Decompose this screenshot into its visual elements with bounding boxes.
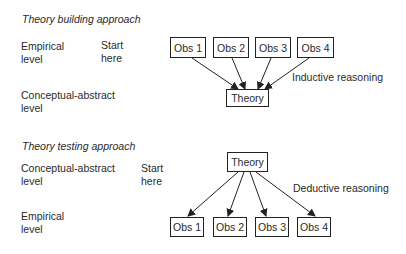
testing-obs-1-box: Obs 1: [170, 217, 204, 237]
label-line: level: [21, 175, 115, 188]
testing-empirical-level-label: Empirical level: [21, 210, 64, 235]
label-line: here: [101, 52, 123, 65]
building-empirical-level-label: Empirical level: [21, 40, 64, 65]
testing-start-here-label: Start here: [141, 162, 163, 187]
building-conceptual-level-label: Conceptual-abstract level: [21, 89, 115, 114]
building-obs-2-box: Obs 2: [213, 37, 249, 58]
label-line: Conceptual-abstract: [21, 162, 115, 175]
label-line: Conceptual-abstract: [21, 89, 115, 102]
building-obs-1-box: Obs 1: [170, 37, 206, 58]
label-line: Start: [101, 39, 123, 52]
building-start-here-label: Start here: [101, 39, 123, 64]
label-line: level: [21, 223, 64, 236]
label-line: level: [21, 53, 64, 66]
label-line: here: [141, 175, 163, 188]
building-obs-4-box: Obs 4: [297, 37, 334, 58]
testing-title: Theory testing approach: [22, 140, 135, 153]
deductive-reasoning-label: Deductive reasoning: [293, 182, 389, 195]
label-line: Empirical: [21, 210, 64, 223]
label-line: Empirical: [21, 40, 64, 53]
label-line: level: [21, 102, 115, 115]
testing-obs-4-box: Obs 4: [297, 217, 331, 237]
inductive-reasoning-label: Inductive reasoning: [292, 71, 383, 84]
building-obs-3-box: Obs 3: [255, 37, 291, 58]
building-title: Theory building approach: [22, 13, 141, 26]
testing-obs-2-box: Obs 2: [213, 217, 247, 237]
label-line: Start: [141, 162, 163, 175]
testing-conceptual-level-label: Conceptual-abstract level: [21, 162, 115, 187]
testing-obs-3-box: Obs 3: [255, 217, 289, 237]
testing-theory-box: Theory: [227, 152, 268, 172]
building-theory-box: Theory: [226, 89, 269, 107]
